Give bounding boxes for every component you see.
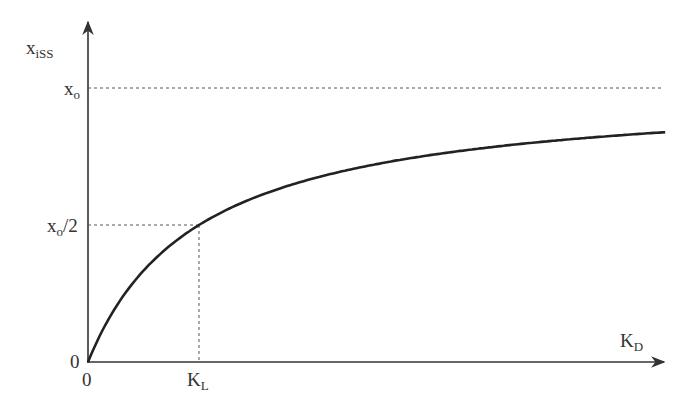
x-tick-kl: KL (187, 370, 209, 392)
y-tick-xo: xo (64, 79, 80, 101)
x-tick-zero: 0 (82, 370, 92, 389)
y-tick-zero: 0 (70, 352, 80, 371)
y-tick-half: xo/2 (47, 216, 78, 238)
x-axis-label: KD (620, 331, 643, 353)
saturation-curve (88, 132, 665, 362)
y-axis-label: xiSS (26, 38, 54, 60)
saturation-curve-plot (0, 0, 694, 407)
